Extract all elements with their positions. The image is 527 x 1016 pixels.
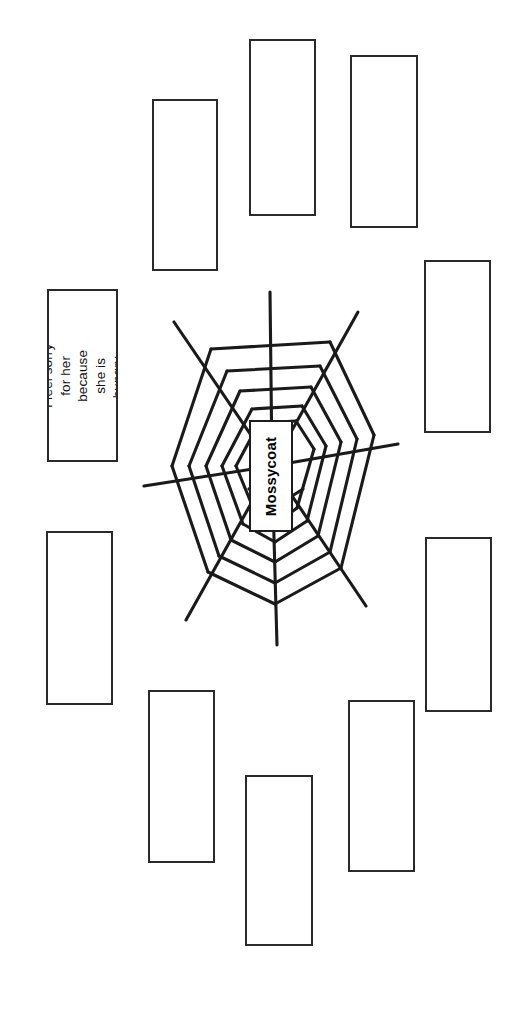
response-box-text: I feel sorry for her because she is hung… bbox=[47, 342, 118, 409]
response-box-empty[interactable] bbox=[46, 531, 113, 705]
response-box-filled[interactable]: I feel sorry for her because she is hung… bbox=[47, 289, 118, 462]
response-box-empty[interactable] bbox=[350, 55, 418, 228]
worksheet-page: I feel sorry for her because she is hung… bbox=[0, 0, 527, 1016]
center-name-label: Mossycoat bbox=[263, 436, 280, 515]
center-name-box[interactable]: Mossycoat bbox=[249, 420, 293, 532]
response-box-empty[interactable] bbox=[148, 690, 215, 863]
response-box-empty[interactable] bbox=[152, 99, 218, 271]
response-box-empty[interactable] bbox=[348, 700, 415, 872]
response-box-empty[interactable] bbox=[245, 775, 313, 946]
response-box-empty[interactable] bbox=[425, 537, 492, 712]
response-box-empty[interactable] bbox=[249, 39, 316, 216]
response-box-empty[interactable] bbox=[424, 260, 491, 433]
